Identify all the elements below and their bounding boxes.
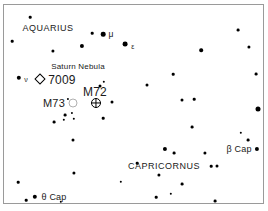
star-point xyxy=(240,132,242,134)
star-point xyxy=(51,49,54,52)
star-point xyxy=(214,200,217,203)
label-m72-label: M72 xyxy=(83,86,107,98)
star-point xyxy=(101,32,106,37)
star-point xyxy=(191,126,194,129)
star-point xyxy=(73,118,75,120)
star-point xyxy=(256,107,261,112)
star-point xyxy=(17,181,20,184)
star-point xyxy=(33,195,37,199)
chart-frame: AQUARIUSCAPRICORNUSμενβ Capθ CapSaturn N… xyxy=(3,4,264,204)
star-point xyxy=(210,165,213,168)
star-point xyxy=(193,98,196,101)
star-chart: AQUARIUSCAPRICORNUSμενβ Capθ CapSaturn N… xyxy=(0,0,268,211)
star-point xyxy=(155,196,158,199)
star-point xyxy=(237,29,240,32)
star-point xyxy=(247,139,250,142)
globular-crossbar-vertical xyxy=(95,98,96,108)
star-point xyxy=(123,42,128,47)
star-point xyxy=(199,48,203,52)
label-m73-label: M73 xyxy=(43,98,65,109)
star-point xyxy=(102,117,105,120)
open-cluster-marker xyxy=(69,99,78,108)
label-mu-aqr: μ xyxy=(108,30,113,39)
star-point xyxy=(103,81,105,83)
star-point xyxy=(120,181,122,183)
star-point xyxy=(80,44,84,48)
star-point xyxy=(172,73,175,76)
star-point xyxy=(247,45,250,48)
star-point xyxy=(11,40,14,43)
label-aquarius: AQUARIUS xyxy=(22,24,73,33)
star-point xyxy=(72,171,75,174)
star-point xyxy=(255,73,258,76)
star-point xyxy=(216,165,219,168)
star-point xyxy=(53,121,56,124)
star-point xyxy=(91,32,94,35)
label-beta-cap: β Cap xyxy=(226,145,251,154)
star-point xyxy=(157,173,160,176)
label-saturn-nebula: Saturn Nebula xyxy=(51,63,105,71)
globular-cluster-marker xyxy=(91,98,101,108)
star-point xyxy=(17,76,21,80)
star-point xyxy=(72,139,75,142)
star-point xyxy=(173,152,176,155)
star-point xyxy=(181,183,184,186)
star-point xyxy=(255,147,259,151)
star-point xyxy=(170,193,172,195)
label-capricornus: CAPRICORNUS xyxy=(128,162,200,171)
star-point xyxy=(25,199,28,202)
star-point xyxy=(111,101,114,104)
star-point xyxy=(163,147,167,151)
label-theta-cap: θ Cap xyxy=(41,193,66,202)
star-point xyxy=(146,84,149,87)
star-point xyxy=(29,16,32,19)
label-epsilon-aqr: ε xyxy=(131,43,134,50)
star-point xyxy=(63,119,65,121)
star-point xyxy=(203,151,206,154)
star-point xyxy=(71,112,73,114)
star-point xyxy=(181,99,184,102)
label-ngc7009-label: 7009 xyxy=(48,74,76,86)
label-nu-aqr: ν xyxy=(24,76,28,83)
star-point xyxy=(64,114,67,117)
planetary-nebula-marker xyxy=(34,73,45,84)
